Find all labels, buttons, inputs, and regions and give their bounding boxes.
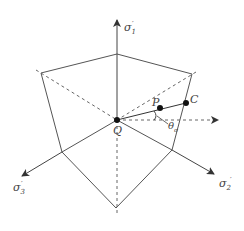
point-p-label: P bbox=[151, 96, 160, 109]
point-q-label: Q bbox=[113, 124, 122, 137]
sigma2-axis bbox=[172, 150, 214, 174]
deviatoric-plane-diagram: σ1′ σ2′ σ3′ Q P C θσ bbox=[0, 0, 244, 231]
point-c-label: C bbox=[190, 93, 199, 106]
sigma3-label: σ3′ bbox=[13, 180, 26, 196]
sigma1-label: σ1′ bbox=[124, 20, 136, 36]
theta-label: θσ bbox=[168, 120, 179, 133]
sigma2-label: σ2′ bbox=[219, 176, 232, 192]
dashed-lines bbox=[36, 70, 196, 214]
theta-arc bbox=[154, 111, 156, 120]
sigma3-axis bbox=[22, 152, 62, 176]
point-c bbox=[183, 100, 189, 106]
point-q bbox=[114, 117, 120, 123]
